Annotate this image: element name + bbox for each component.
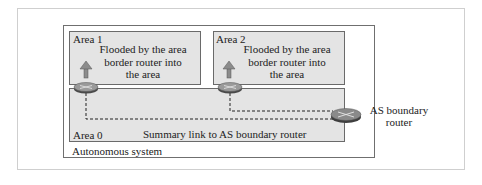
summary-link-area1 [86,93,335,119]
flood-arrow-icon-area1 [80,61,92,78]
summary-link-area2 [230,93,333,111]
diagram-overlay [0,0,482,185]
area-border-router-icon-2 [218,83,242,94]
area-border-router-icon-1 [74,83,98,94]
as-boundary-router-icon [331,109,361,124]
flood-arrow-icon-area2 [223,61,235,78]
